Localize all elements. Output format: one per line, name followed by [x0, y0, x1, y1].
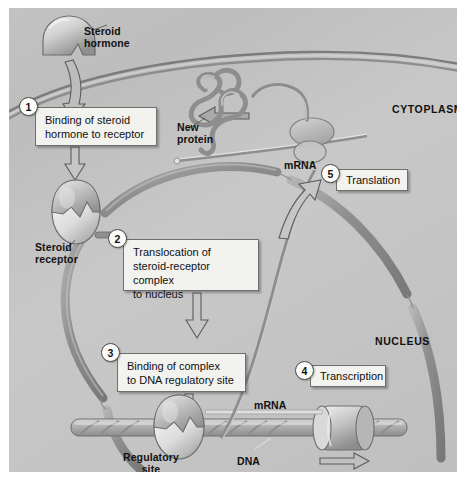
- structure-label-new-protein: New protein: [177, 122, 213, 146]
- binding-arrow: [65, 147, 85, 180]
- steroid-hormone-pathway-figure: CYTOPLASM NUCLEUS Steroid hormone New pr…: [9, 8, 457, 472]
- compartment-label-cytoplasm: CYTOPLASM: [392, 104, 457, 116]
- callout-step-5[interactable]: Translation: [336, 169, 408, 191]
- step-number-2[interactable]: 2: [108, 229, 127, 248]
- bound-receptor-complex: [154, 395, 204, 459]
- polypeptide-chain: [253, 85, 307, 120]
- callout-step-1[interactable]: Binding of steroid hormone to receptor: [35, 107, 157, 146]
- transcription-direction-arrow: [320, 453, 369, 469]
- step-number-4[interactable]: 4: [295, 361, 314, 380]
- ribosome: [290, 118, 334, 163]
- structure-label-dna: DNA: [237, 456, 260, 468]
- compartment-label-nucleus: NUCLEUS: [375, 336, 430, 348]
- diagram-canvas: CYTOPLASM NUCLEUS Steroid hormone New pr…: [0, 0, 467, 482]
- mrna-export-strand: [221, 170, 317, 438]
- structure-label-regulatory-site: Regulatory site: [123, 452, 179, 472]
- step-number-5[interactable]: 5: [321, 164, 340, 183]
- callout-step-2[interactable]: Translocation of steroid-receptor comple…: [123, 239, 259, 291]
- step-number-3[interactable]: 3: [101, 343, 120, 362]
- callout-step-3[interactable]: Binding of complex to DNA regulatory sit…: [117, 353, 246, 392]
- structure-label-mrna-cytoplasm: mRNA: [284, 160, 317, 172]
- translocation-arrow: [186, 293, 208, 338]
- step-number-1[interactable]: 1: [19, 97, 38, 116]
- structure-label-mrna-nucleus: mRNA: [254, 400, 287, 412]
- callout-step-4[interactable]: Transcription: [310, 365, 386, 387]
- structure-label-steroid-receptor: Steroid receptor: [35, 242, 78, 266]
- structure-label-steroid-hormone: Steroid hormone: [84, 26, 130, 50]
